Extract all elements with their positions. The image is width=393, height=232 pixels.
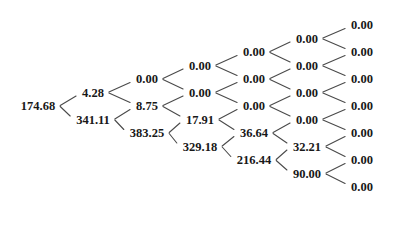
lattice-node: 383.25 [130,127,164,140]
lattice-node: 0.00 [243,73,265,86]
lattice-figure: 174.684.28341.110.008.75383.250.000.0017… [0,0,393,232]
lattice-node: 4.28 [82,86,104,99]
lattice-node: 0.00 [243,100,265,113]
lattice-node: 0.00 [351,19,373,32]
lattice-node: 0.00 [296,32,318,45]
lattice-node: 341.11 [76,113,110,126]
lattice-node: 0.00 [189,86,211,99]
lattice-node: 0.00 [296,59,318,72]
lattice-node: 0.00 [296,113,318,126]
lattice-node: 0.00 [351,100,373,113]
lattice-node: 36.64 [240,127,268,140]
lattice-node: 0.00 [351,154,373,167]
lattice-node: 0.00 [243,46,265,59]
lattice-node: 0.00 [351,73,373,86]
lattice-node: 8.75 [136,100,158,113]
lattice-node: 174.68 [21,100,55,113]
lattice-node: 329.18 [183,140,217,153]
lattice-node: 0.00 [136,73,158,86]
lattice-node: 0.00 [189,59,211,72]
lattice-node: 17.91 [186,113,214,126]
lattice-node: 0.00 [351,127,373,140]
lattice-node: 32.21 [293,140,321,153]
lattice-node: 0.00 [351,181,373,194]
lattice-node: 90.00 [293,167,321,180]
lattice-node: 0.00 [296,86,318,99]
lattice-node: 216.44 [237,154,271,167]
lattice-node: 0.00 [351,46,373,59]
